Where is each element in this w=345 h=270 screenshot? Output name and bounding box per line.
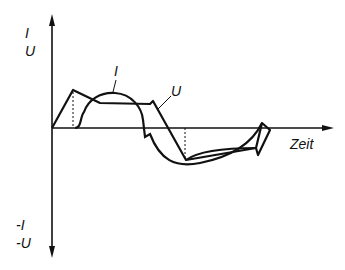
y-axis-label-voltage: U: [25, 44, 35, 58]
x-axis-label: Zeit: [290, 137, 313, 151]
y-axis-up-arrow-icon: [49, 14, 55, 26]
y-axis-label-current: I: [25, 26, 29, 40]
voltage-curve-label: U: [171, 84, 181, 98]
y-axis-label-neg-current: -I: [16, 218, 25, 232]
waveform-diagram: [0, 0, 345, 270]
x-axis-arrow-icon: [322, 125, 334, 131]
voltage-leader: [157, 96, 171, 110]
y-axis-label-neg-voltage: -U: [16, 236, 31, 250]
current-leader: [113, 80, 116, 92]
y-axis-down-arrow-icon: [49, 246, 55, 258]
current-curve-label: I: [114, 64, 118, 78]
